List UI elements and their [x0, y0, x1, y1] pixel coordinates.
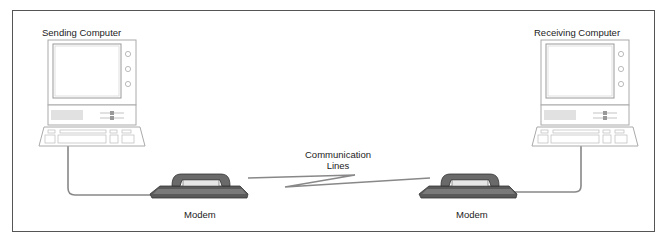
communication-lines-line2: Lines	[298, 160, 378, 171]
sending-computer-icon	[39, 40, 145, 146]
right-modem-icon	[419, 174, 517, 198]
left-modem-label: Modem	[184, 209, 216, 220]
receiving-computer-label: Receiving Computer	[534, 27, 620, 38]
right-modem-label: Modem	[456, 209, 488, 220]
left-modem-icon	[150, 174, 248, 198]
communication-lines-line1: Communication	[298, 149, 378, 160]
sending-computer-label: Sending Computer	[42, 27, 121, 38]
receiving-computer-icon	[532, 40, 638, 146]
communication-lines-label: Communication Lines	[298, 149, 378, 171]
